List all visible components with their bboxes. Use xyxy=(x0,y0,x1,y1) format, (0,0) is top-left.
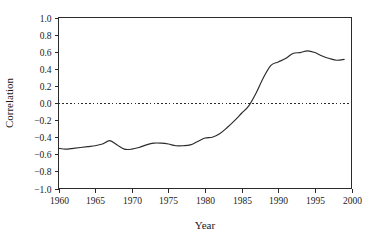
y-tick-label-0: −1.0 xyxy=(34,185,51,195)
y-tick-label-2: −0.6 xyxy=(34,150,51,160)
y-tick-label-5: 0.0 xyxy=(40,99,52,109)
x-tick-label-1: 1965 xyxy=(86,196,105,206)
y-tick-label-6: 0.2 xyxy=(40,82,52,92)
x-tick-label-2: 1970 xyxy=(123,196,142,206)
x-tick-label-4: 1980 xyxy=(196,196,215,206)
y-tick-label-1: −0.8 xyxy=(34,167,51,177)
y-tick-label-8: 0.6 xyxy=(40,48,52,58)
x-tick-label-8: 2000 xyxy=(343,196,362,206)
x-tick-label-5: 1985 xyxy=(233,196,252,206)
x-axis-title: Year xyxy=(195,219,216,231)
correlation-series-line xyxy=(59,51,345,150)
correlation-line-chart: −1.0−0.8−0.6−0.4−0.20.00.20.40.60.81.0 1… xyxy=(0,0,379,238)
plot-frame xyxy=(59,18,352,189)
x-axis-tick-labels: 196019651970197519801985199019952000 xyxy=(50,196,362,206)
y-tick-label-3: −0.4 xyxy=(34,133,51,143)
y-axis-title: Correlation xyxy=(3,77,15,128)
y-axis-tick-labels: −1.0−0.8−0.6−0.4−0.20.00.20.40.60.81.0 xyxy=(34,14,51,195)
y-tick-label-9: 0.8 xyxy=(40,31,52,41)
correlation-vs-year-figure: −1.0−0.8−0.6−0.4−0.20.00.20.40.60.81.0 1… xyxy=(0,0,379,238)
plot-border xyxy=(59,18,352,189)
y-tick-label-4: −0.2 xyxy=(34,116,51,126)
x-axis-ticks xyxy=(60,189,353,193)
x-tick-label-6: 1990 xyxy=(269,196,288,206)
y-tick-label-10: 1.0 xyxy=(40,14,52,24)
x-tick-label-0: 1960 xyxy=(50,196,69,206)
x-tick-label-3: 1975 xyxy=(159,196,178,206)
x-tick-label-7: 1995 xyxy=(306,196,325,206)
y-tick-label-7: 0.4 xyxy=(40,65,52,75)
y-axis-ticks xyxy=(55,19,59,190)
